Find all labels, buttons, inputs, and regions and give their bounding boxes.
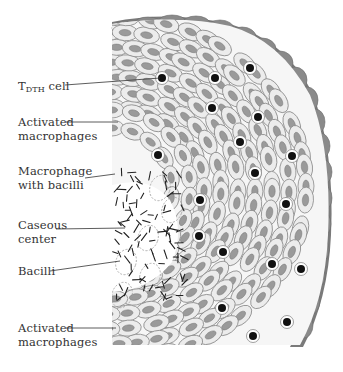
label-activated-macrophages-bottom: Activatedmacrophages xyxy=(18,321,97,349)
label-bacilli: Bacilli xyxy=(18,264,55,278)
macrophage-layer xyxy=(94,9,332,367)
label-tdth-cell: TDTH cell xyxy=(18,79,70,97)
label-activated-macrophages-top: Activatedmacrophages xyxy=(18,115,97,143)
label-caseous-center: Caseouscenter xyxy=(18,218,67,246)
label-macrophage-with-bacilli: Macrophagewith bacilli xyxy=(18,164,92,192)
